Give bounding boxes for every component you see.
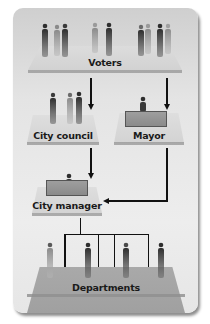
manager-stem-line [80,218,82,234]
arrow-left-icon [103,198,109,204]
mayor-to-manager-horizontal-line [108,200,168,202]
mayor-to-manager-vertical-line [166,148,168,201]
city-manager-label: City manager [32,200,102,211]
city-council-label: City council [27,130,99,141]
mayor-figure-icon [0,90,210,120]
department-staff-icon [0,240,210,300]
mayor-label: Mayor [114,130,184,141]
mayor-platform-edge [114,142,184,145]
city-council-platform-edge [27,142,99,145]
voters-figures-icon [0,0,210,70]
city-manager-desk [46,180,88,196]
branch-bar-line [64,234,149,236]
city-manager-platform-edge [32,213,102,216]
mayor-desk [125,111,167,127]
voters-platform-edge [28,70,182,73]
